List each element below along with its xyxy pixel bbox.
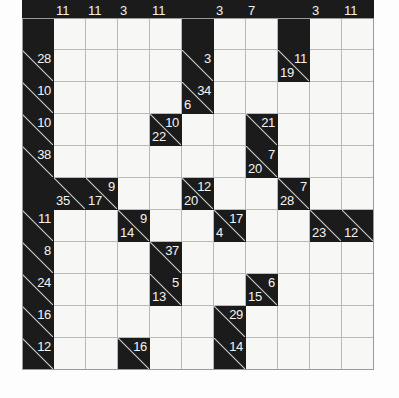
- answer-cell[interactable]: [342, 306, 374, 338]
- answer-cell[interactable]: [310, 338, 342, 370]
- answer-cell[interactable]: [118, 146, 150, 178]
- answer-cell[interactable]: [54, 18, 86, 50]
- answer-cell[interactable]: [86, 274, 118, 306]
- answer-cell[interactable]: [86, 338, 118, 370]
- answer-cell[interactable]: [118, 242, 150, 274]
- answer-cell[interactable]: [86, 242, 118, 274]
- answer-cell[interactable]: [278, 306, 310, 338]
- answer-cell[interactable]: [86, 82, 118, 114]
- answer-cell[interactable]: [150, 18, 182, 50]
- answer-cell[interactable]: [342, 146, 374, 178]
- answer-cell[interactable]: [118, 82, 150, 114]
- down-clue: 6: [184, 98, 191, 111]
- answer-cell[interactable]: [342, 82, 374, 114]
- answer-cell[interactable]: [310, 146, 342, 178]
- answer-cell[interactable]: [150, 306, 182, 338]
- answer-cell[interactable]: [182, 114, 214, 146]
- answer-cell[interactable]: [150, 210, 182, 242]
- answer-cell[interactable]: [342, 50, 374, 82]
- answer-cell[interactable]: [214, 18, 246, 50]
- answer-cell[interactable]: [86, 50, 118, 82]
- answer-cell[interactable]: [118, 306, 150, 338]
- answer-cell[interactable]: [214, 82, 246, 114]
- answer-cell[interactable]: [278, 210, 310, 242]
- answer-cell[interactable]: [214, 114, 246, 146]
- answer-cell[interactable]: [214, 178, 246, 210]
- clue-cell: 35: [54, 178, 86, 210]
- answer-cell[interactable]: [214, 50, 246, 82]
- answer-cell[interactable]: [246, 242, 278, 274]
- answer-cell[interactable]: [54, 306, 86, 338]
- answer-cell[interactable]: [182, 274, 214, 306]
- answer-cell[interactable]: [342, 274, 374, 306]
- clue-cell: 16: [118, 338, 150, 370]
- answer-cell[interactable]: [118, 178, 150, 210]
- answer-cell[interactable]: [278, 274, 310, 306]
- answer-cell[interactable]: [118, 50, 150, 82]
- answer-cell[interactable]: [86, 210, 118, 242]
- answer-cell[interactable]: [54, 338, 86, 370]
- answer-cell[interactable]: [86, 306, 118, 338]
- across-clue: 16: [133, 340, 147, 353]
- answer-cell[interactable]: [310, 50, 342, 82]
- answer-cell[interactable]: [150, 50, 182, 82]
- answer-cell[interactable]: [246, 18, 278, 50]
- answer-cell[interactable]: [278, 146, 310, 178]
- clue-cell: 14: [214, 338, 246, 370]
- answer-cell[interactable]: [150, 178, 182, 210]
- answer-cell[interactable]: [150, 82, 182, 114]
- answer-cell[interactable]: [54, 210, 86, 242]
- answer-cell[interactable]: [214, 146, 246, 178]
- answer-cell[interactable]: [54, 274, 86, 306]
- answer-cell[interactable]: [182, 210, 214, 242]
- answer-cell[interactable]: [246, 178, 278, 210]
- answer-cell[interactable]: [310, 82, 342, 114]
- answer-cell[interactable]: [54, 242, 86, 274]
- answer-cell[interactable]: [310, 242, 342, 274]
- answer-cell[interactable]: [118, 18, 150, 50]
- answer-cell[interactable]: [246, 210, 278, 242]
- answer-cell[interactable]: [310, 274, 342, 306]
- answer-cell[interactable]: [342, 242, 374, 274]
- answer-cell[interactable]: [310, 114, 342, 146]
- answer-cell[interactable]: [246, 338, 278, 370]
- answer-cell[interactable]: [310, 18, 342, 50]
- answer-cell[interactable]: [214, 274, 246, 306]
- clue-cell: 10: [22, 82, 54, 114]
- answer-cell[interactable]: [246, 50, 278, 82]
- answer-cell[interactable]: [86, 18, 118, 50]
- answer-cell[interactable]: [342, 338, 374, 370]
- answer-cell[interactable]: [54, 114, 86, 146]
- answer-cell[interactable]: [182, 306, 214, 338]
- answer-cell[interactable]: [150, 146, 182, 178]
- kakuro-grid-wrapper[interactable]: 2831119103461010222138720359171220728119…: [22, 18, 374, 370]
- answer-cell[interactable]: [182, 146, 214, 178]
- answer-cell[interactable]: [278, 338, 310, 370]
- answer-cell[interactable]: [182, 242, 214, 274]
- answer-cell[interactable]: [118, 274, 150, 306]
- answer-cell[interactable]: [86, 146, 118, 178]
- answer-cell[interactable]: [278, 242, 310, 274]
- answer-cell[interactable]: [214, 242, 246, 274]
- answer-cell[interactable]: [278, 82, 310, 114]
- answer-cell[interactable]: [278, 114, 310, 146]
- answer-cell[interactable]: [86, 114, 118, 146]
- answer-cell[interactable]: [150, 338, 182, 370]
- clue-cell: 8: [22, 242, 54, 274]
- answer-cell[interactable]: [182, 338, 214, 370]
- blocked-cell: [182, 18, 214, 50]
- answer-cell[interactable]: [54, 82, 86, 114]
- answer-cell[interactable]: [246, 306, 278, 338]
- answer-cell[interactable]: [342, 18, 374, 50]
- answer-cell[interactable]: [342, 114, 374, 146]
- kakuro-grid[interactable]: 2831119103461010222138720359171220728119…: [22, 18, 374, 370]
- clue-cell: 3: [182, 50, 214, 82]
- answer-cell[interactable]: [342, 178, 374, 210]
- answer-cell[interactable]: [310, 306, 342, 338]
- answer-cell[interactable]: [246, 82, 278, 114]
- blocked-cell: [182, 0, 214, 18]
- answer-cell[interactable]: [118, 114, 150, 146]
- answer-cell[interactable]: [54, 50, 86, 82]
- answer-cell[interactable]: [310, 178, 342, 210]
- answer-cell[interactable]: [54, 146, 86, 178]
